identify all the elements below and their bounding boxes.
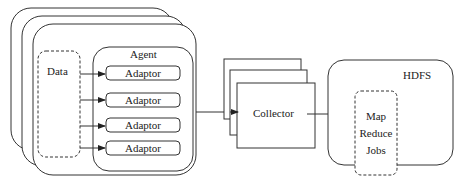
- diagram-canvas: Data Agent Adaptor Adaptor Adaptor Adapt…: [0, 0, 459, 183]
- jobs-line-3: Jobs: [366, 144, 386, 156]
- jobs-line-1: Map: [366, 110, 387, 122]
- collector-stack: [224, 59, 315, 148]
- agent-label: Agent: [130, 48, 157, 60]
- adaptor-label-2: Adaptor: [125, 94, 161, 106]
- jobs-line-2: Reduce: [360, 127, 393, 139]
- adaptor-label-1: Adaptor: [125, 67, 161, 79]
- data-label: Data: [47, 65, 68, 77]
- adaptor-label-4: Adaptor: [125, 142, 161, 154]
- collector-label: Collector: [253, 107, 294, 119]
- hdfs-label: HDFS: [403, 69, 431, 81]
- adaptor-label-3: Adaptor: [125, 119, 161, 131]
